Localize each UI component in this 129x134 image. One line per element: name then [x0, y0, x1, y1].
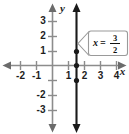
x-tick-label-1: 1: [66, 70, 72, 81]
y-tick-label-1: 1: [40, 45, 46, 56]
x-tick-label-2: 2: [82, 70, 88, 81]
point-1-5-neg1: [74, 78, 79, 83]
y-tick-label-neg2: -2: [37, 89, 46, 100]
equation-callout: x = 3 2: [78, 31, 128, 56]
x-tick-label-neg2: -2: [16, 70, 25, 81]
coordinate-plane-figure: -2 -1 1 2 3 4 3 2 1 -2 -3 x y: [0, 0, 129, 134]
point-1-5-1: [74, 49, 79, 54]
x-tick-label-neg1: -1: [32, 70, 41, 81]
y-tick-label-neg3: -3: [37, 104, 46, 115]
y-tick-label-3: 3: [40, 15, 46, 26]
x-tick-label-3: 3: [98, 70, 104, 81]
fraction-denominator: 2: [113, 45, 117, 55]
x-axis-label: x: [119, 65, 126, 77]
y-tick-label-2: 2: [40, 30, 46, 41]
y-axis: [49, 4, 57, 133]
fraction-numerator: 3: [113, 33, 117, 43]
callout-variable: x: [92, 37, 98, 48]
callout-equals: =: [100, 37, 106, 48]
y-axis-label: y: [58, 2, 65, 14]
point-1-5-0: [74, 63, 79, 68]
plotted-points: [74, 49, 79, 83]
